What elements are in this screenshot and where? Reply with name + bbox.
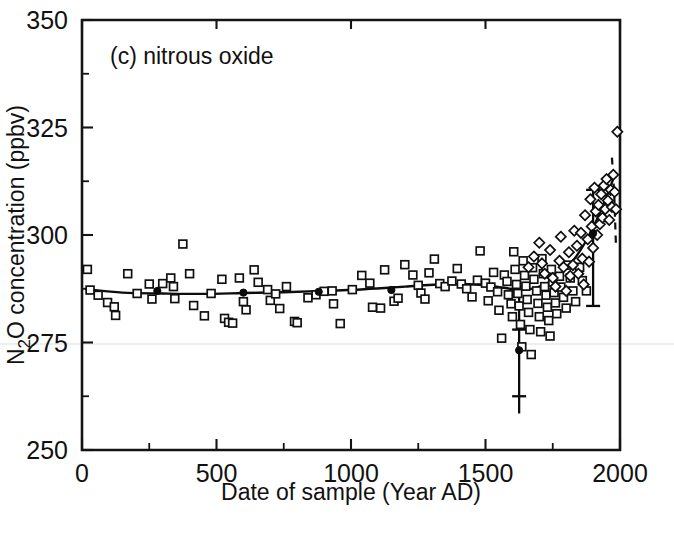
data-point-square (514, 290, 522, 298)
data-point-square (328, 287, 336, 295)
data-point-filled-circle (240, 289, 247, 296)
data-point-square (425, 269, 433, 277)
plot-frame (82, 20, 620, 450)
data-point-filled-circle (590, 230, 597, 237)
data-point-square (186, 270, 194, 278)
data-point-square (179, 240, 187, 248)
data-point-square (167, 274, 175, 282)
axis-ticks (82, 20, 620, 450)
data-point-square (453, 265, 461, 273)
data-point-square (330, 300, 338, 308)
data-point-square (468, 293, 476, 301)
data-point-square (369, 303, 377, 311)
data-point-square (572, 298, 580, 306)
data-point-square (170, 283, 178, 291)
data-point-square (494, 288, 502, 296)
data-point-square (110, 303, 118, 311)
data-point-diamond (534, 238, 544, 248)
data-point-filled-circle (388, 286, 395, 293)
data-point-square (201, 312, 209, 320)
data-point-square (240, 298, 248, 306)
data-point-square (484, 297, 492, 305)
series-filled-circles (154, 230, 597, 354)
data-point-diamond (545, 245, 555, 255)
data-point-square (562, 304, 570, 312)
data-point-square (272, 290, 280, 298)
data-point-square (218, 275, 226, 283)
x-axis-title: Date of sample (Year AD) (221, 479, 481, 505)
data-point-filled-circle (315, 288, 322, 295)
data-point-square (521, 272, 529, 280)
data-point-square (124, 270, 132, 278)
y-tick-label: 325 (26, 114, 68, 142)
data-point-square (522, 282, 530, 290)
data-point-square (511, 266, 519, 274)
data-point-square (543, 303, 551, 311)
data-point-square (254, 278, 262, 286)
data-point-diamond (580, 210, 590, 220)
data-point-square (546, 332, 554, 340)
data-point-square (207, 290, 215, 298)
data-point-square (535, 313, 543, 321)
data-point-square (242, 306, 250, 314)
data-point-square (545, 317, 553, 325)
data-point-square (430, 255, 438, 263)
data-point-square (159, 280, 167, 288)
data-point-square (421, 295, 429, 303)
data-point-square (510, 248, 518, 256)
data-point-square (94, 291, 102, 299)
data-point-square (394, 294, 402, 302)
data-point-square (381, 266, 389, 274)
data-point-square (525, 309, 533, 317)
data-point-square (414, 281, 422, 289)
data-point-square (537, 328, 545, 336)
data-point-diamond (556, 232, 566, 242)
data-point-square (526, 326, 534, 334)
data-point-square (409, 271, 417, 279)
data-point-square (336, 320, 344, 328)
data-point-square (264, 286, 272, 294)
data-point-square (523, 296, 531, 304)
data-point-square (463, 285, 471, 293)
data-point-square (542, 291, 550, 299)
data-point-square (533, 287, 541, 295)
data-point-square (490, 269, 498, 277)
data-point-filled-circle (154, 287, 161, 294)
data-point-square (145, 280, 153, 288)
data-point-square (530, 275, 538, 283)
series-open-squares (83, 240, 590, 358)
data-point-square (504, 291, 512, 299)
data-point-square (401, 261, 409, 269)
data-point-square (527, 351, 535, 359)
x-tick-label: 0 (75, 459, 89, 487)
data-point-square (517, 321, 525, 329)
data-point-filled-circle (516, 347, 523, 354)
y-tick-label: 350 (26, 6, 68, 34)
data-point-square (507, 300, 515, 308)
data-point-square (513, 281, 521, 289)
data-point-square (503, 278, 511, 286)
data-point-square (476, 247, 484, 255)
panel-title: (c) nitrous oxide (110, 43, 274, 69)
data-point-square (541, 283, 549, 291)
y-tick-label: 300 (26, 221, 68, 249)
x-tick-label: 2000 (592, 459, 648, 487)
data-point-square (358, 272, 366, 280)
data-point-square (250, 266, 258, 274)
data-point-square (283, 283, 291, 291)
data-point-square (448, 277, 456, 285)
data-point-square (148, 295, 156, 303)
nitrous-oxide-scatter-chart: 2502753003253500500100015002000 (c) nitr… (0, 0, 674, 533)
data-point-square (366, 279, 374, 287)
data-point-square (133, 290, 141, 298)
data-point-square (474, 276, 482, 284)
data-point-square (229, 319, 237, 327)
data-point-square (552, 299, 560, 307)
y-tick-label: 250 (26, 436, 68, 464)
data-point-square (498, 334, 506, 342)
data-point-square (348, 286, 356, 294)
data-point-square (293, 319, 301, 327)
data-point-square (495, 306, 503, 314)
data-point-square (235, 274, 243, 282)
data-point-square (304, 294, 312, 302)
